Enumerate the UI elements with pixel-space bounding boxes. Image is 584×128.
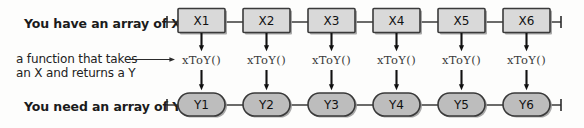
y-node-2-label: Y2 — [258, 98, 274, 112]
function-label-1: xToY() — [182, 53, 221, 67]
y-node-1-label: Y1 — [193, 98, 209, 112]
x-array-row: X1 X2 X3 X4 X5 — [167, 9, 561, 35]
y-node-6[interactable]: Y6 — [503, 93, 552, 118]
function-to-y-arrows — [202, 70, 527, 87]
x-node-5-label: X5 — [454, 14, 470, 28]
y-node-5-label: Y5 — [453, 98, 469, 112]
diagram-canvas: You have an array of Xs a function that … — [0, 0, 584, 128]
y-node-1[interactable]: Y1 — [178, 93, 227, 118]
y-node-3-label: Y3 — [323, 98, 339, 112]
x-node-4[interactable]: X4 — [373, 9, 422, 35]
x-node-4-label: X4 — [389, 14, 405, 28]
function-label-5: xToY() — [442, 53, 481, 67]
x-node-2[interactable]: X2 — [243, 9, 292, 35]
x-node-6-label: X6 — [519, 14, 535, 28]
y-node-6-label: Y6 — [518, 98, 534, 112]
function-label-row: xToY() xToY() xToY() xToY() xToY() xToY(… — [182, 53, 546, 67]
array-map-diagram: X1 X2 X3 X4 X5 — [0, 0, 584, 128]
y-node-5[interactable]: Y5 — [438, 93, 487, 118]
y-array-row: Y1 Y2 Y3 Y4 Y5 — [167, 93, 561, 118]
y-node-3[interactable]: Y3 — [308, 93, 357, 118]
function-label-4: xToY() — [377, 53, 416, 67]
function-label-6: xToY() — [507, 53, 546, 67]
function-label-2: xToY() — [247, 53, 286, 67]
x-node-6[interactable]: X6 — [503, 9, 552, 35]
x-node-5[interactable]: X5 — [438, 9, 487, 35]
y-node-2[interactable]: Y2 — [243, 93, 292, 118]
x-node-1-label: X1 — [194, 14, 210, 28]
x-node-3[interactable]: X3 — [308, 9, 357, 35]
x-to-function-arrows — [202, 33, 527, 48]
y-node-4[interactable]: Y4 — [373, 93, 422, 118]
x-node-2-label: X2 — [259, 14, 275, 28]
y-node-4-label: Y4 — [388, 98, 404, 112]
function-label-3: xToY() — [312, 53, 351, 67]
x-node-1[interactable]: X1 — [178, 9, 227, 35]
x-node-3-label: X3 — [324, 14, 340, 28]
